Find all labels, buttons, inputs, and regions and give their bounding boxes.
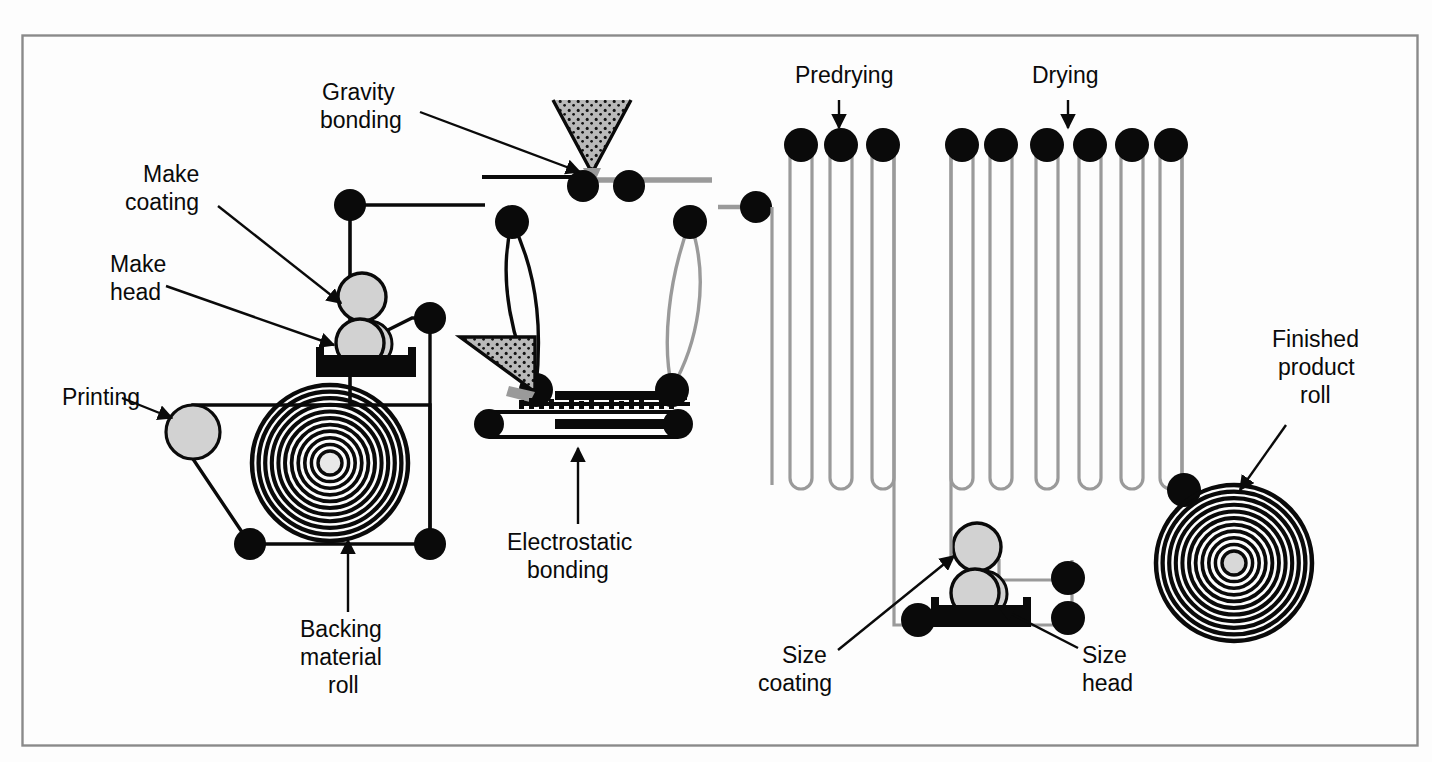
transfer-roller — [740, 191, 772, 223]
label-make-coating-line-1: Make — [143, 161, 199, 187]
upper-electrode-bar — [555, 391, 687, 400]
gravity-bonding-section — [482, 100, 712, 202]
label-backing-roll-line-1: Backing — [300, 616, 382, 642]
label-printing: Printing — [62, 384, 140, 410]
label-drying: Drying — [1032, 62, 1098, 88]
drying-roller-4 — [1073, 128, 1107, 162]
predrying-loop-3 — [872, 148, 894, 489]
size-idler-roller-top-right — [1051, 561, 1085, 595]
predrying-roller-1 — [784, 128, 818, 162]
label-finished-roll-line-2: product — [1278, 354, 1355, 380]
leader-make-coating — [218, 206, 341, 303]
drying-loop-6 — [1160, 148, 1182, 489]
drying-loop-1 — [951, 148, 973, 489]
label-make-head-line-2: head — [110, 279, 161, 305]
electrostatic-lower-roller-left — [474, 409, 504, 439]
label-size-head-line-2: head — [1082, 670, 1133, 696]
label-size-coating: Size coating — [758, 642, 832, 696]
electrostatic-roller-top-right — [673, 205, 707, 239]
label-size-head-line-1: Size — [1082, 642, 1127, 668]
drying-rollers — [945, 128, 1188, 162]
idler-roller-printing-right — [414, 528, 446, 560]
label-backing-material-roll: Backing material roll — [300, 616, 382, 698]
predrying-roller-2 — [824, 128, 858, 162]
make-coating-roller — [338, 273, 386, 321]
electrostatic-bonding-section — [460, 205, 707, 439]
predrying-roller-3 — [866, 128, 900, 162]
drying-loop-5 — [1121, 148, 1143, 489]
label-size-coating-line-2: coating — [758, 670, 832, 696]
drying-roller-2 — [984, 128, 1018, 162]
electrostatic-hopper — [460, 337, 535, 392]
drying-roller-5 — [1115, 128, 1149, 162]
label-electrostatic-line-2: bonding — [527, 557, 609, 583]
label-backing-roll-line-2: material — [300, 644, 382, 670]
gravity-support-roller-left — [567, 170, 599, 202]
predrying-rollers — [784, 128, 900, 162]
label-printing-line-1: Printing — [62, 384, 140, 410]
predrying-festoon — [790, 148, 894, 505]
leader-gravity — [420, 112, 580, 172]
label-make-head-line-1: Make — [110, 251, 166, 277]
leader-make-head — [166, 286, 334, 345]
gravity-support-roller-right — [613, 170, 645, 202]
label-gravity-bonding: Gravity bonding — [320, 79, 402, 133]
drying-roller-3 — [1030, 128, 1064, 162]
label-size-head: Size head — [1082, 642, 1133, 696]
printing-roller — [166, 405, 220, 459]
label-gravity-bonding-line-1: Gravity — [322, 79, 395, 105]
label-gravity-bonding-line-2: bonding — [320, 107, 402, 133]
label-drying-line-1: Drying — [1032, 62, 1098, 88]
backing-material-roll — [252, 385, 408, 541]
idler-roller-printing-bottom — [234, 528, 266, 560]
label-finished-product-roll: Finished product roll — [1272, 326, 1359, 408]
electrostatic-belt-right-back — [667, 222, 690, 388]
label-make-head: Make head — [110, 251, 166, 305]
idler-roller-make-top — [334, 189, 366, 221]
label-make-coating-line-2: coating — [125, 189, 199, 215]
drying-festoon — [951, 145, 1182, 560]
size-coating-roller — [953, 523, 1001, 571]
process-flow-diagram: Printing Make head Make coating Gravity … — [0, 0, 1432, 762]
make-head-pan-body — [316, 355, 416, 377]
electrostatic-roller-top-left — [495, 205, 529, 239]
figure-canvas: Printing Make head Make coating Gravity … — [0, 0, 1432, 762]
electrostatic-lower-roller-right — [663, 409, 693, 439]
lower-electrode-bar — [555, 419, 667, 429]
gravity-hopper-walls — [553, 100, 631, 173]
leader-finished-roll — [1240, 425, 1286, 490]
label-make-coating: Make coating — [125, 161, 199, 215]
label-backing-roll-line-3: roll — [328, 672, 359, 698]
size-idler-roller-bottom-right — [1051, 601, 1085, 635]
transfer-section — [718, 191, 772, 485]
label-electrostatic-line-1: Electrostatic — [507, 529, 632, 555]
label-finished-roll-line-3: roll — [1300, 382, 1331, 408]
size-head-section — [894, 505, 1085, 637]
label-size-coating-line-1: Size — [782, 642, 827, 668]
drying-loop-4 — [1079, 148, 1101, 489]
predrying-loop-1 — [790, 148, 812, 489]
electrostatic-belt-right — [672, 222, 700, 388]
label-finished-roll-line-1: Finished — [1272, 326, 1359, 352]
label-electrostatic-bonding: Electrostatic bonding — [507, 529, 632, 583]
drying-loop-3 — [1036, 148, 1058, 489]
finished-product-roll — [1156, 485, 1312, 641]
label-predrying-line-1: Predrying — [795, 62, 893, 88]
idler-roller-make-right — [414, 302, 446, 334]
label-predrying: Predrying — [795, 62, 893, 88]
drying-loop-2 — [990, 148, 1012, 489]
drying-roller-6 — [1154, 128, 1188, 162]
size-idler-roller-left — [901, 603, 935, 637]
drying-roller-1 — [945, 128, 979, 162]
predrying-loop-2 — [830, 148, 852, 489]
